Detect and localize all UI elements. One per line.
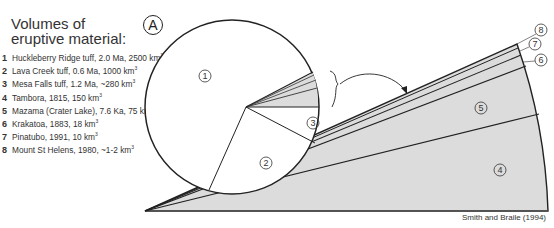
- wedge-label-8: 8: [538, 25, 543, 35]
- volume-diagram: 1 2 3 5 4 8 7 6: [0, 0, 554, 228]
- wedge-label-7: 7: [532, 39, 537, 49]
- pie-label-2: 2: [263, 158, 268, 168]
- pie-chart: 1 2 3: [145, 20, 319, 194]
- wedge-label-4: 4: [497, 165, 502, 175]
- pie-label-3: 3: [310, 118, 315, 128]
- pie-label-1: 1: [202, 71, 207, 81]
- wedge-label-5: 5: [478, 103, 483, 113]
- wedge-label-6: 6: [538, 55, 543, 65]
- source-credit: Smith and Braile (1994): [462, 213, 546, 222]
